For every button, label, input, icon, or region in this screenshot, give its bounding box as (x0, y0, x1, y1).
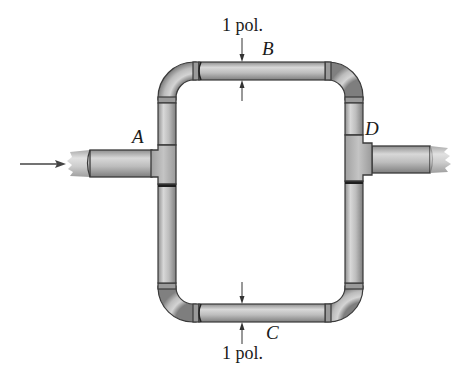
pipe-left-vertical (158, 103, 176, 283)
tee-d (345, 135, 372, 181)
flow-arrow-in (20, 160, 66, 168)
point-label-b: B (262, 38, 274, 60)
elbow-bottom-right (325, 283, 363, 322)
dimension-label-bottom: 1 pol. (222, 343, 263, 364)
pipe-loop-diagram (0, 0, 473, 384)
outlet-pipe (372, 146, 451, 173)
pipe-right-vertical (345, 103, 363, 283)
dimension-label-top: 1 pol. (222, 15, 263, 36)
point-label-a: A (132, 126, 144, 148)
inlet-pipe (67, 150, 152, 177)
point-label-c: C (266, 322, 279, 344)
elbow-bottom-left (158, 283, 199, 322)
point-label-d: D (365, 118, 379, 140)
pipe-b-top (199, 62, 325, 80)
elbow-top-right (325, 62, 363, 103)
tee-a (151, 145, 176, 184)
elbow-top-left (158, 62, 199, 103)
pipe-c-bottom (199, 304, 325, 322)
